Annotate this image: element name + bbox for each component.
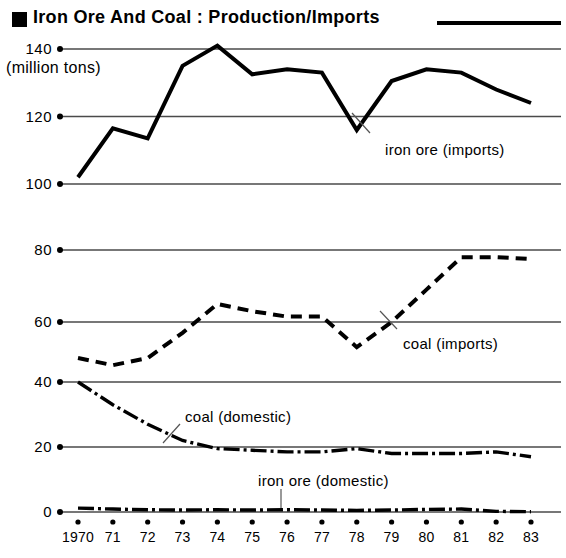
x-axis-tick-dot: [389, 519, 394, 524]
series-annotation-label: iron ore (imports): [385, 141, 505, 158]
data-series-line: [78, 508, 531, 512]
axis-tick-dot: [57, 444, 63, 450]
x-axis-tick-dot: [215, 519, 220, 524]
x-axis-tick-dot: [459, 519, 464, 524]
series-annotation-label: coal (domestic): [185, 408, 291, 425]
x-axis-tick-dot: [354, 519, 359, 524]
axis-tick-dot: [57, 46, 63, 52]
chart-plot-area: 100120140608002040(million tons)19707172…: [0, 0, 566, 558]
x-axis-tick-dot: [319, 519, 324, 524]
x-axis-tick-dot: [180, 519, 185, 524]
y-axis-tick-label: 80: [8, 241, 52, 258]
x-axis-tick-dot: [110, 519, 115, 524]
x-axis-tick-dot: [528, 519, 533, 524]
y-axis-unit-label: (million tons): [6, 59, 101, 77]
series-annotation-label: coal (imports): [403, 335, 498, 352]
y-axis-tick-label: 100: [8, 175, 52, 192]
x-axis-tick-dot: [145, 519, 150, 524]
y-axis-tick-label: 0: [8, 503, 52, 520]
y-axis-tick-label: 40: [8, 373, 52, 390]
series-annotation-label: iron ore (domestic): [258, 472, 389, 489]
y-axis-tick-label: 120: [8, 108, 52, 125]
x-axis-tick-dot: [494, 519, 499, 524]
axis-tick-dot: [57, 379, 63, 385]
axis-tick-dot: [57, 319, 63, 325]
x-axis-tick-dot: [75, 519, 80, 524]
x-axis-tick-dot: [424, 519, 429, 524]
data-series-line: [78, 382, 531, 457]
x-axis-tick-dot: [284, 519, 289, 524]
y-axis-tick-label: 20: [8, 438, 52, 455]
axis-tick-dot: [57, 509, 63, 515]
axis-tick-dot: [57, 247, 63, 253]
x-axis-tick-dot: [250, 519, 255, 524]
x-axis-tick-label: 83: [508, 529, 554, 545]
y-axis-tick-label: 60: [8, 313, 52, 330]
axis-tick-dot: [57, 181, 63, 187]
axis-tick-dot: [57, 114, 63, 120]
y-axis-tick-label: 140: [8, 40, 52, 57]
chart-page: Iron Ore And Coal : Production/Imports 1…: [0, 0, 566, 558]
